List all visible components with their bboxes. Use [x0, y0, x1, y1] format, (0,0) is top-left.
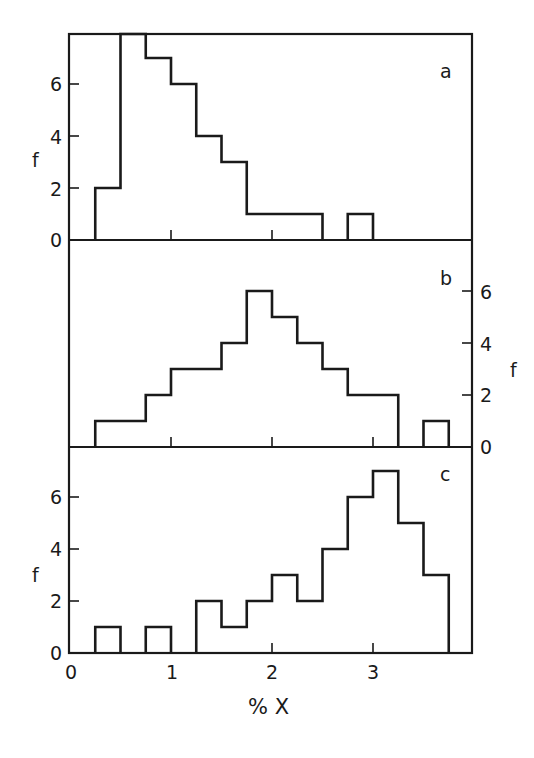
panel-label-b: b	[440, 267, 452, 289]
svg-text:2: 2	[50, 178, 62, 200]
svg-text:4: 4	[480, 333, 492, 355]
histograms	[95, 34, 449, 653]
panel-frames	[69, 34, 472, 653]
svg-text:4: 4	[50, 126, 62, 148]
y-tick-labels-b: 0 2 4 6	[480, 281, 492, 458]
svg-text:3: 3	[367, 661, 379, 683]
svg-text:2: 2	[50, 590, 62, 612]
svg-text:6: 6	[50, 73, 62, 95]
panel-label-a: a	[440, 60, 452, 82]
histogram-b	[95, 291, 449, 447]
y-axis-label-c: f	[32, 564, 40, 586]
svg-text:2: 2	[266, 661, 278, 683]
histogram-c	[95, 471, 449, 653]
svg-text:6: 6	[50, 486, 62, 508]
svg-text:0: 0	[480, 436, 492, 458]
outer-frame	[69, 34, 472, 653]
svg-text:2: 2	[480, 384, 492, 406]
y-axis-label-b: f	[510, 359, 518, 381]
svg-text:4: 4	[50, 538, 62, 560]
svg-text:0: 0	[50, 229, 62, 251]
histogram-a	[95, 34, 373, 240]
svg-text:0: 0	[50, 642, 62, 664]
svg-text:6: 6	[480, 281, 492, 303]
y-tick-labels-a: 0 2 4 6	[50, 73, 62, 251]
svg-text:0: 0	[65, 661, 77, 683]
axis-ticks	[69, 84, 472, 653]
histogram-figure: a b c f f f 0 2 4 6 0 2 4 6 0 2 4 6 0 1 …	[0, 0, 534, 758]
x-axis-label: % X	[248, 695, 289, 719]
y-tick-labels-c: 0 2 4 6	[50, 486, 62, 664]
panel-label-c: c	[440, 463, 450, 485]
x-tick-labels: 0 1 2 3	[65, 661, 379, 683]
svg-text:1: 1	[166, 661, 178, 683]
y-axis-label-a: f	[32, 149, 40, 171]
